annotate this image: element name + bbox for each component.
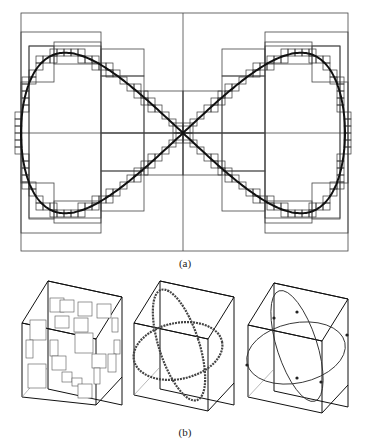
cube-with-ellipses	[241, 283, 351, 413]
figure-canvas	[0, 0, 365, 446]
caption-b: (b)	[165, 426, 205, 438]
panel-b	[22, 281, 351, 413]
cube-with-boxes	[22, 281, 122, 405]
intersection-points	[245, 310, 348, 383]
caption-a: (a)	[165, 257, 205, 269]
cube-with-box-chained-ellipses	[128, 281, 234, 411]
